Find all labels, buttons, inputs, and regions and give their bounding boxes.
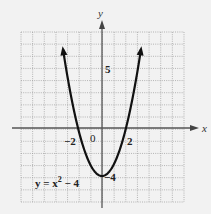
y-axis-arrow-icon — [99, 20, 105, 29]
tick-label-y-5: 5 — [105, 63, 111, 75]
parabola-chart: x y −2 0 2 5 −4 y = x2 − 4 — [0, 0, 211, 214]
equation-lhs: y = x — [35, 177, 58, 189]
tick-label-y-neg4: −4 — [104, 171, 116, 183]
tick-label-x-2: 2 — [127, 135, 133, 147]
curve-arrow-left-icon — [60, 46, 67, 55]
equation-label: y = x2 − 4 — [35, 175, 80, 189]
x-axis-arrow-icon — [190, 125, 199, 131]
tick-label-x-neg2: −2 — [64, 135, 76, 147]
x-axis-label: x — [201, 122, 207, 134]
equation-rhs: − 4 — [62, 177, 80, 189]
y-axis-label: y — [97, 7, 103, 19]
tick-label-origin: 0 — [90, 132, 96, 144]
